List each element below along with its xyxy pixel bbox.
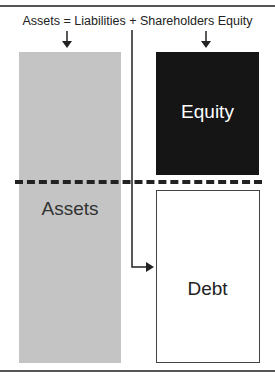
assets-arrow-icon bbox=[62, 31, 72, 48]
liabilities-arrow-icon bbox=[132, 30, 154, 272]
equity-arrow-icon bbox=[201, 31, 211, 48]
connector-arrows bbox=[0, 0, 275, 381]
